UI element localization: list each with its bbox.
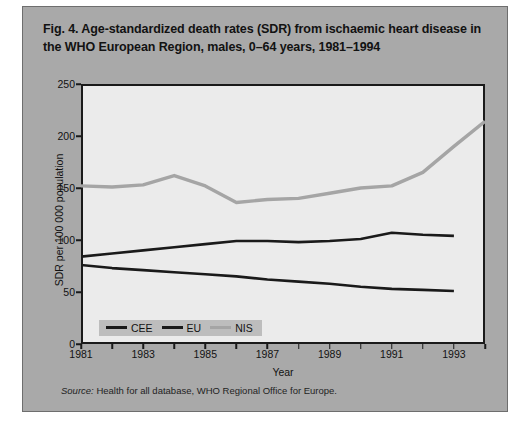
x-tick-label: 1991: [380, 348, 403, 360]
legend-entry-eu: EU: [162, 323, 202, 334]
y-tick-mark: [76, 239, 81, 241]
x-tick-label: 1985: [194, 348, 217, 360]
plot-svg: [81, 84, 485, 344]
series-line-eu: [81, 265, 454, 291]
legend-swatch-eu: [162, 326, 183, 329]
chart-legend: CEEEUNIS: [99, 320, 262, 337]
series-line-cee: [81, 233, 454, 257]
x-tick-mark: [111, 344, 113, 349]
x-axis-title: Year: [81, 366, 485, 378]
y-tick-mark: [76, 187, 81, 189]
legend-label-cee: CEE: [131, 323, 153, 334]
source-note: Source: Health for all database, WHO Reg…: [61, 385, 337, 396]
x-tick-label: 1989: [318, 348, 341, 360]
x-tick-label: 1981: [69, 348, 92, 360]
legend-swatch-nis: [210, 326, 231, 329]
x-tick-mark: [298, 344, 300, 349]
x-tick-label: 1987: [256, 348, 279, 360]
x-tick-mark: [422, 344, 424, 349]
figure-title: Fig. 4. Age-standardized death rates (SD…: [43, 21, 493, 57]
x-tick-label: 1983: [131, 348, 154, 360]
legend-label-eu: EU: [187, 323, 202, 334]
source-text: Health for all database, WHO Regional Of…: [94, 385, 337, 396]
x-tick-mark: [484, 344, 486, 349]
x-tick-mark: [236, 344, 238, 349]
y-tick-mark: [76, 291, 81, 293]
y-tick-mark: [76, 135, 81, 137]
legend-swatch-cee: [106, 326, 127, 329]
legend-entry-nis: NIS: [210, 323, 253, 334]
legend-entry-cee: CEE: [106, 323, 153, 334]
y-tick-mark: [76, 83, 81, 85]
x-tick-mark: [360, 344, 362, 349]
x-tick-label: 1993: [442, 348, 465, 360]
series-line-nis: [81, 121, 485, 202]
y-axis-title: SDR per 100 000 population: [53, 20, 65, 420]
legend-label-nis: NIS: [235, 323, 253, 334]
source-keyword: Source:: [61, 385, 94, 396]
figure-panel: Fig. 4. Age-standardized death rates (SD…: [22, 6, 508, 412]
chart-area: 050100150200250 198119831985198719891991…: [81, 84, 485, 344]
x-tick-mark: [173, 344, 175, 349]
